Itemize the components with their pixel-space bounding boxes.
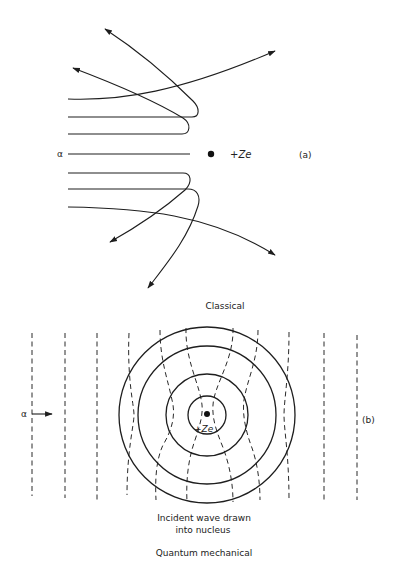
rutherford-scattering-figure: α +Ze (a) Classical +Ze α (b) Incide [0, 0, 397, 565]
trajectory-7 [68, 207, 275, 255]
trajectory-3 [68, 68, 189, 134]
wavefront-4 [127, 333, 134, 495]
trajectory-1 [68, 51, 275, 99]
panel-label-b: (b) [362, 415, 375, 425]
nucleus-dot-b [204, 411, 210, 417]
trajectory-6 [68, 189, 199, 288]
nucleus-dot [208, 151, 214, 157]
wavefront-8 [243, 330, 260, 500]
annotation-line-2: into nucleus [176, 525, 231, 535]
wavefront-7 [213, 328, 233, 502]
panel-a-classical: α +Ze (a) Classical [57, 29, 312, 311]
nucleus-charge-label-a: +Ze [230, 149, 251, 160]
wavefront-9 [284, 332, 289, 500]
nucleus-charge-label-b: +Ze [194, 424, 214, 434]
annotation-line-1: Incident wave drawn [157, 513, 251, 523]
caption-classical: Classical [205, 301, 244, 311]
alpha-label-b: α [21, 409, 27, 419]
panel-b-quantum: +Ze α (b) Incident wave drawn into nucle… [21, 327, 375, 558]
caption-quantum: Quantum mechanical [156, 548, 253, 558]
alpha-label-a: α [57, 149, 63, 159]
panel-label-a: (a) [299, 150, 312, 160]
